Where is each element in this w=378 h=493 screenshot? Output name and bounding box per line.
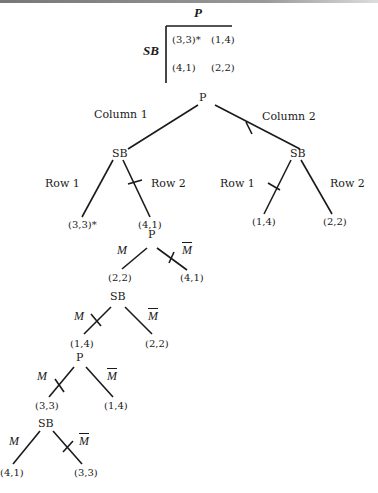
sub4-mbar-label: M	[79, 435, 89, 447]
edge-label-column-2: Column 2	[262, 111, 316, 123]
sub2-payoff-left: (1,4)	[70, 338, 94, 350]
tree-node-sb-left: SB	[112, 148, 128, 160]
edge-label-left-row-2: Row 2	[151, 178, 186, 190]
leaf-payoff-right-row-2: (2,2)	[323, 216, 347, 228]
sub1-node: P	[148, 229, 155, 241]
sub4-payoff-left: (4,1)	[0, 467, 24, 479]
edge-label-left-row-1: Row 1	[45, 178, 80, 190]
edge-label-right-row-1: Row 1	[220, 178, 255, 190]
sub2-node: SB	[110, 291, 126, 303]
matrix-column-player: P	[194, 7, 202, 19]
leaf-payoff-right-row-1: (1,4)	[252, 216, 276, 228]
sub3-payoff-right: (1,4)	[104, 400, 128, 412]
sub3-node: P	[76, 352, 83, 364]
sub3-m-label: M	[37, 370, 47, 382]
matrix-cell-r1c1: (3,3)*	[172, 34, 201, 46]
sub1-payoff-right: (4,1)	[180, 272, 204, 284]
sub1-payoff-left: (2,2)	[108, 272, 132, 284]
sub3-mbar-label: M	[107, 370, 117, 382]
matrix-row-player: SB	[143, 45, 159, 57]
sub1-mbar-label: M	[182, 244, 192, 256]
tree-root-node: P	[199, 92, 206, 104]
tree-node-sb-right: SB	[290, 148, 306, 160]
edge-label-column-1: Column 1	[94, 109, 148, 121]
sub4-m-label: M	[9, 435, 19, 447]
sub4-node: SB	[38, 418, 54, 430]
sub3-payoff-left: (3,3)	[35, 400, 59, 412]
sub2-mbar-label: M	[148, 310, 158, 322]
matrix-cell-r2c2: (2,2)	[211, 62, 235, 74]
sub4-payoff-right: (3,3)	[74, 467, 98, 479]
edge-label-right-row-2: Row 2	[330, 178, 365, 190]
leaf-payoff-left-row-1: (3,3)*	[68, 219, 97, 231]
matrix-cell-r2c1: (4,1)	[172, 62, 196, 74]
sub1-m-label: M	[117, 244, 127, 256]
sub2-payoff-right: (2,2)	[145, 338, 169, 350]
sub2-m-label: M	[74, 310, 84, 322]
matrix-cell-r1c2: (1,4)	[211, 34, 235, 46]
